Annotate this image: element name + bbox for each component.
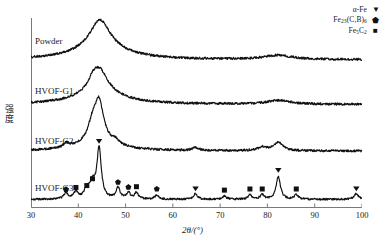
marker-pentagon bbox=[125, 184, 131, 190]
x-tick-label-90: 90 bbox=[310, 210, 319, 220]
legend-label-alpha-fe: α-Fe bbox=[353, 5, 367, 16]
marker-pentagon bbox=[115, 179, 121, 185]
y-axis-label: 强 度 bbox=[3, 104, 16, 124]
down-triangle-icon: ▼ bbox=[372, 6, 379, 14]
legend-item-alpha-fe: α-Fe ▼ bbox=[333, 5, 379, 16]
xrd-chart-figure: α-Fe ▼ Fe23(C,B)6 ⬟ Fe5C2 ■ 强 度 30405060… bbox=[0, 0, 385, 249]
x-tick-label-40: 40 bbox=[74, 210, 83, 220]
x-axis-label: 2θ/(°) bbox=[0, 225, 385, 235]
x-tick-label-50: 50 bbox=[121, 210, 130, 220]
curve-label-hvof-g3: HVOF-G3 bbox=[35, 183, 74, 193]
marker-square bbox=[260, 186, 265, 191]
x-tick-label-30: 30 bbox=[27, 210, 36, 220]
square-icon: ■ bbox=[372, 27, 379, 35]
curve-label-hvof-g1: HVOF-G1 bbox=[35, 86, 74, 96]
x-tick-label-80: 80 bbox=[263, 210, 272, 220]
marker-square bbox=[294, 186, 299, 191]
curve-label-powder: Powder bbox=[35, 36, 63, 46]
marker-square bbox=[90, 176, 95, 181]
x-tick-label-60: 60 bbox=[169, 210, 178, 220]
curve-label-hvof-g2: HVOF-G2 bbox=[35, 136, 74, 146]
marker-down-triangle bbox=[275, 168, 281, 173]
pentagon-icon: ⬟ bbox=[372, 17, 379, 25]
x-tick-label-70: 70 bbox=[216, 210, 225, 220]
y-axis-label-char-1: 强 bbox=[3, 104, 16, 114]
marker-square bbox=[134, 184, 139, 189]
series-line-Powder bbox=[31, 19, 362, 60]
marker-square bbox=[73, 185, 78, 190]
series-line-HVOF-G3 bbox=[31, 146, 362, 201]
marker-down-triangle bbox=[96, 139, 102, 144]
series-line-HVOF-G1 bbox=[31, 66, 362, 105]
marker-square bbox=[222, 188, 227, 193]
x-axis-label-suffix: /(°) bbox=[191, 225, 203, 235]
marker-square bbox=[84, 183, 89, 188]
marker-down-triangle bbox=[192, 187, 198, 192]
x-tick-label-100: 100 bbox=[356, 210, 369, 220]
marker-pentagon bbox=[154, 186, 160, 192]
marker-square bbox=[247, 186, 252, 191]
plot-area bbox=[31, 18, 362, 208]
x-axis-tick-labels: 30405060708090100 bbox=[0, 210, 385, 224]
xrd-plot-svg bbox=[31, 18, 362, 208]
marker-down-triangle bbox=[353, 187, 359, 192]
y-axis-label-char-2: 度 bbox=[3, 114, 16, 124]
